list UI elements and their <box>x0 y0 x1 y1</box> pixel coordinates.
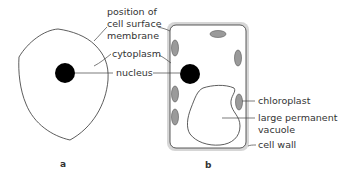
chloroplast-right-2 <box>236 94 243 110</box>
label-cell-wall: cell wall <box>258 139 296 150</box>
chloroplast-left-3 <box>172 109 179 125</box>
chloroplast-left-2 <box>172 86 179 102</box>
label-vacuole-line1: large permanent <box>258 112 338 123</box>
sublabel-b: b <box>205 160 212 170</box>
label-nucleus: nucleus <box>116 67 153 78</box>
leader-cell-wall <box>248 145 256 146</box>
label-chloroplast: chloroplast <box>258 95 311 106</box>
chloroplast-right-1 <box>235 50 242 66</box>
sublabel-a: a <box>60 159 66 169</box>
label-cytoplasm: cytoplasm <box>112 48 161 59</box>
plant-cell <box>167 22 249 151</box>
label-vacuole-line2: vacuole <box>258 124 295 135</box>
label-membrane-line1: position of <box>107 6 157 17</box>
animal-cell <box>19 29 108 140</box>
plant-cell-nucleus <box>180 64 200 84</box>
label-membrane-line2: cell surface <box>107 18 162 29</box>
leader-membrane-a <box>94 27 107 41</box>
cell-diagram: position of cell surface membrane cytopl… <box>0 0 346 178</box>
animal-cell-nucleus <box>55 63 75 83</box>
label-membrane-line3: membrane <box>107 30 159 41</box>
chloroplast-top <box>210 31 226 38</box>
chloroplast-left-1 <box>172 40 179 56</box>
animal-cell-membrane <box>19 29 108 140</box>
